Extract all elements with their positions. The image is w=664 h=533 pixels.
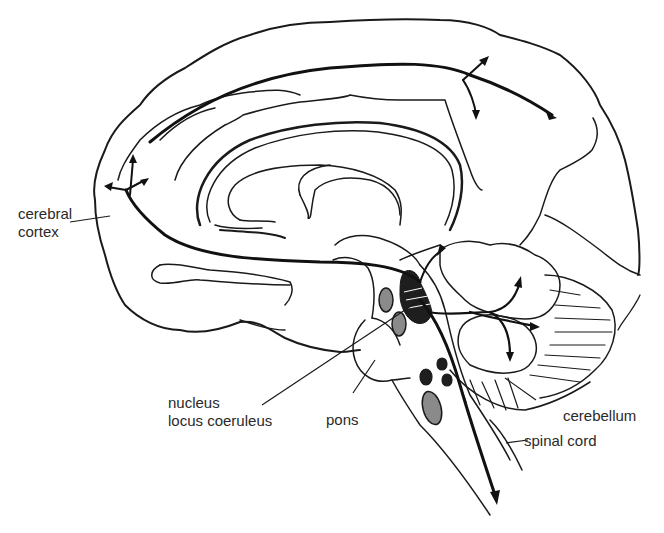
cerebellum-foliae <box>540 275 615 398</box>
corpus-callosum <box>197 122 462 230</box>
label-spinal-cord: spinal cord <box>524 432 597 450</box>
label-cerebral-cortex: cerebral cortex <box>18 205 72 241</box>
brain-diagram: cerebral cortex nucleus locus coeruleus … <box>0 0 664 533</box>
brain-illustration <box>0 0 664 533</box>
label-pons: pons <box>326 411 359 429</box>
cerebellum-upper-lobe <box>440 241 560 318</box>
label-nucleus-line2: locus coeruleus <box>168 412 272 430</box>
label-cerebral-cortex-line2: cortex <box>18 223 72 241</box>
temporal-lobe <box>152 265 290 285</box>
label-nucleus-locus-coeruleus: nucleus locus coeruleus <box>168 394 272 430</box>
label-nucleus-line1: nucleus <box>168 394 272 412</box>
label-cerebellum: cerebellum <box>563 407 636 425</box>
label-cerebral-cortex-line1: cerebral <box>18 205 72 223</box>
brainstem-outline <box>392 380 490 515</box>
